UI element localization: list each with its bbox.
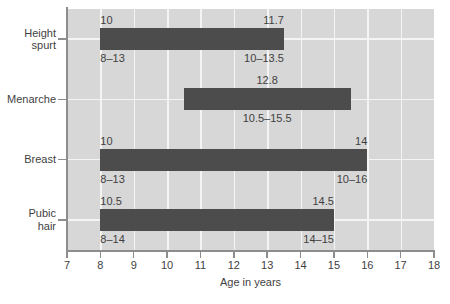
x-axis-tick [300, 252, 302, 258]
y-axis-tick [58, 99, 67, 101]
category-label-pubic-hair: Pubic hair [28, 207, 56, 232]
x-axis-title: Age in years [67, 276, 434, 288]
category-label-height-spurt: Height spurt [24, 27, 56, 52]
bar-label-below-center: 10.5–15.5 [243, 112, 292, 124]
y-axis-tick [58, 159, 67, 161]
x-axis-tick-label: 16 [352, 259, 382, 271]
x-axis-tick [200, 252, 202, 258]
x-axis-tick [266, 252, 268, 258]
x-axis-tick-label: 17 [386, 259, 416, 271]
x-axis-tick [333, 252, 335, 258]
bar-label-below-left: 8–13 [100, 52, 124, 64]
gridline-vertical [367, 9, 369, 250]
x-axis-line [66, 250, 435, 252]
bar-label-above-right: 14 [355, 135, 367, 147]
bar [100, 28, 284, 50]
bar [184, 88, 351, 110]
bar-label-above-left: 10 [100, 14, 112, 26]
gridline-vertical [401, 9, 403, 250]
x-axis-tick-label: 9 [119, 259, 149, 271]
y-axis-line [66, 7, 68, 252]
x-axis-tick [367, 252, 369, 258]
x-axis-tick [100, 252, 102, 258]
x-axis-tick-label: 14 [286, 259, 316, 271]
x-axis-tick-label: 7 [52, 259, 82, 271]
bar [100, 149, 367, 171]
bar-label-below-right: 10–16 [337, 173, 368, 185]
y-axis-tick [58, 38, 67, 40]
category-label-breast: Breast [24, 153, 56, 166]
x-axis-tick [400, 252, 402, 258]
x-axis-tick-label: 15 [319, 259, 349, 271]
y-axis-tick [58, 219, 67, 221]
x-axis-tick-label: 12 [219, 259, 249, 271]
x-axis-tick [233, 252, 235, 258]
bar-label-above-center: 12.8 [256, 74, 277, 86]
bar-label-above-right: 14.5 [312, 195, 333, 207]
gridline-vertical [334, 9, 336, 250]
bar-label-below-right: 14–15 [303, 233, 334, 245]
bar [100, 209, 334, 231]
x-axis-tick [433, 252, 435, 258]
x-axis-tick-label: 10 [152, 259, 182, 271]
bar-label-above-right: 11.7 [263, 14, 284, 26]
category-label-menarche: Menarche [7, 93, 56, 106]
chart-figure: 1011.78–1310–13.512.810.5–15.510148–1310… [0, 0, 450, 304]
bar-label-above-left: 10 [100, 135, 112, 147]
x-axis-tick-label: 8 [85, 259, 115, 271]
x-axis-tick-label: 11 [185, 259, 215, 271]
bar-label-below-left: 8–14 [100, 233, 124, 245]
bar-label-below-right: 10–13.5 [244, 52, 284, 64]
x-axis-tick-label: 13 [252, 259, 282, 271]
bar-label-below-left: 8–13 [100, 173, 124, 185]
x-axis-tick [166, 252, 168, 258]
bar-label-above-left: 10.5 [100, 195, 121, 207]
plot-area: 1011.78–1310–13.512.810.5–15.510148–1310… [67, 9, 434, 250]
x-axis-tick-label: 18 [419, 259, 449, 271]
x-axis-tick [66, 252, 68, 258]
x-axis-tick [133, 252, 135, 258]
